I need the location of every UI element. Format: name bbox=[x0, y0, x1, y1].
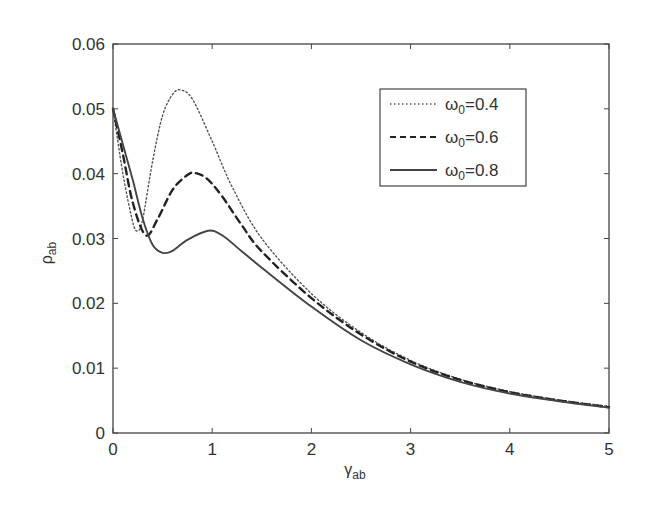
plot-frame bbox=[113, 44, 609, 433]
x-tick-label: 2 bbox=[307, 440, 316, 459]
x-axis-label-sub: ab bbox=[352, 468, 366, 482]
x-tick-label: 4 bbox=[505, 440, 514, 459]
y-tick-label: 0.01 bbox=[72, 359, 105, 378]
y-tick-label: 0.04 bbox=[72, 165, 105, 184]
series-layer bbox=[113, 90, 609, 408]
x-axis-label-main: γ bbox=[344, 461, 352, 478]
y-axis-label-main: ρ bbox=[38, 255, 55, 264]
y-tick-label: 0.06 bbox=[72, 35, 105, 54]
svg-text:ω0=0.6: ω0=0.6 bbox=[445, 128, 499, 150]
x-tick-label: 0 bbox=[108, 440, 117, 459]
y-tick-label: 0.05 bbox=[72, 100, 105, 119]
svg-text:ω0=0.8: ω0=0.8 bbox=[445, 161, 499, 183]
y-tick-label: 0.02 bbox=[72, 294, 105, 313]
series-line-dotted bbox=[113, 90, 609, 407]
y-axis-ticks: 00.010.020.030.040.050.06 bbox=[72, 35, 609, 443]
line-chart: 00.010.020.030.040.050.06 012345 ρab γab… bbox=[0, 0, 647, 513]
x-tick-label: 1 bbox=[207, 440, 216, 459]
svg-text:ρab: ρab bbox=[38, 241, 59, 264]
legend: ω0=0.4 ω0=0.6 ω0=0.8 bbox=[380, 89, 526, 186]
svg-text:ω0=0.4: ω0=0.4 bbox=[445, 95, 499, 117]
x-tick-label: 3 bbox=[406, 440, 415, 459]
y-tick-label: 0.03 bbox=[72, 230, 105, 249]
x-tick-label: 5 bbox=[604, 440, 613, 459]
series-line-solid bbox=[113, 109, 609, 408]
y-axis-label-sub: ab bbox=[45, 241, 59, 255]
series-line-dashed bbox=[113, 109, 609, 407]
plot-area-border bbox=[113, 44, 609, 433]
svg-text:γab: γab bbox=[344, 461, 366, 482]
y-axis-label: ρab bbox=[38, 241, 59, 264]
x-axis-label: γab bbox=[344, 461, 366, 482]
y-tick-label: 0 bbox=[96, 424, 105, 443]
